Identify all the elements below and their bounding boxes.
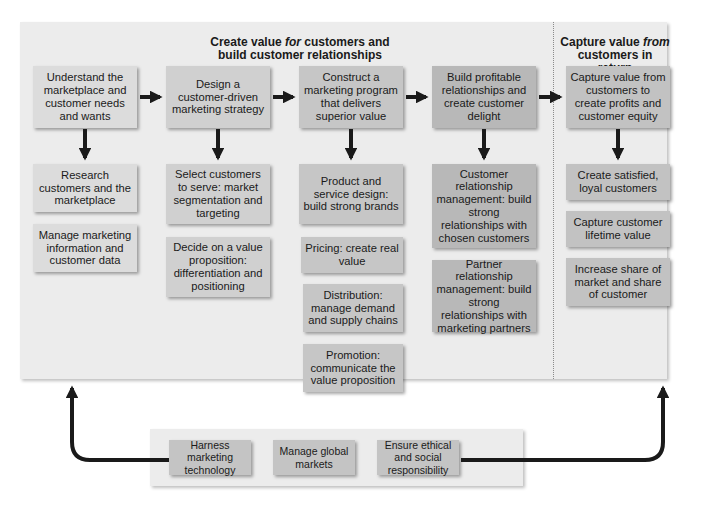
arrow-icon [72, 97, 663, 460]
arrows-layer [0, 0, 713, 510]
